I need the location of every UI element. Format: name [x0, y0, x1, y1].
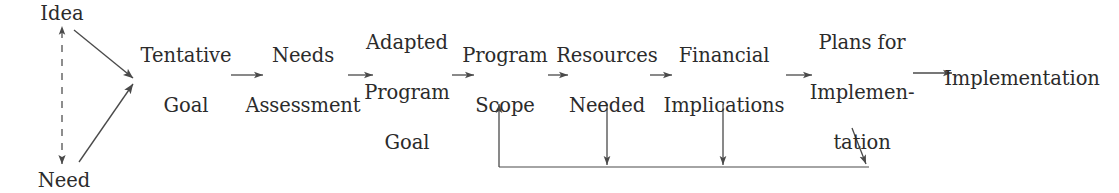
stage-needs-assessment: Needs Assessment	[245, 18, 360, 143]
stage-program-scope: Program Scope	[462, 18, 547, 143]
stage-adapted-program-goal: Adapted Program Goal	[364, 5, 449, 180]
stage-line: Implementation	[944, 66, 1099, 91]
stage-line: Financial	[664, 43, 785, 68]
stage-line: Program	[364, 80, 449, 105]
input-label-need: Need	[38, 169, 91, 193]
stage-resources-needed: Resources Needed	[556, 18, 657, 143]
stage-line: Resources	[556, 43, 657, 68]
stage-line: Adapted	[364, 30, 449, 55]
stage-line: Tentative	[141, 43, 232, 68]
stage-line: Program	[462, 43, 547, 68]
stage-implementation: Implementation	[944, 66, 1099, 91]
stage-line: Implemen-	[810, 80, 915, 105]
stage-plans-for-implementation: Plans for Implemen- tation	[810, 5, 915, 180]
stage-line: Needed	[556, 93, 657, 118]
stage-line: tation	[810, 130, 915, 155]
flowchart-canvas: Idea Need Tentative Goal Needs Assessmen…	[0, 0, 1119, 193]
stage-line: Scope	[462, 93, 547, 118]
arrow-idea-to-tentative-goal	[74, 30, 133, 78]
stage-line: Assessment	[245, 93, 360, 118]
stage-line: Goal	[141, 93, 232, 118]
stage-line: Needs	[245, 43, 360, 68]
stage-line: Implications	[664, 93, 785, 118]
input-label-idea: Idea	[40, 2, 83, 26]
stage-line: Plans for	[810, 30, 915, 55]
arrow-need-to-tentative-goal	[79, 84, 133, 162]
stage-tentative-goal: Tentative Goal	[141, 18, 232, 143]
stage-financial-implications: Financial Implications	[664, 18, 785, 143]
stage-line: Goal	[364, 130, 449, 155]
